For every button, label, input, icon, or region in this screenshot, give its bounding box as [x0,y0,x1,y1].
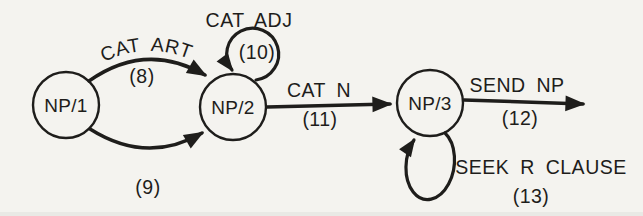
edge-number-11: (11) [302,108,337,130]
edge-label-cat-n: CAT N [287,79,351,101]
edge-number-8: (8) [129,65,154,87]
edge-label-seek-r-clause: SEEK R CLAUSE [455,156,626,178]
edge-seek-r-clause-self-loop [406,133,455,200]
transition-network-svg: NP/1 NP/2 NP/3 CAT ART (8) (9) CAT ADJ (… [0,0,643,216]
scan-edge-artifact [0,212,643,216]
edge-number-12: (12) [502,107,539,129]
edge-send-np-arrow [464,100,583,104]
diagram-canvas: NP/1 NP/2 NP/3 CAT ART (8) (9) CAT ADJ (… [0,0,643,216]
node-label-np2: NP/2 [211,97,254,118]
edge-number-9: (9) [135,176,160,198]
edge-label-cat-adj: CAT ADJ [206,9,293,31]
node-label-np3: NP/3 [408,93,451,114]
node-label-np1: NP/1 [44,95,87,116]
edge-number-10: (10) [239,41,276,63]
edge-cat-n-arrow [267,104,390,107]
edge-number-13: (13) [513,185,550,207]
edge-9-arc [90,129,202,148]
edge-label-send-np: SEND NP [469,74,564,96]
